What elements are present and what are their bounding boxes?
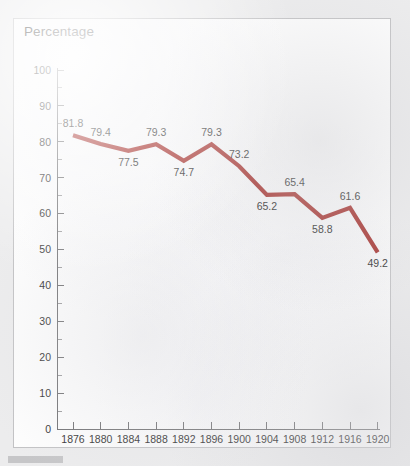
data-point-label: 74.7 (174, 166, 195, 178)
data-point-label: 49.2 (367, 257, 388, 269)
svg-text:80: 80 (39, 136, 51, 148)
svg-text:60: 60 (39, 207, 51, 219)
svg-text:50: 50 (39, 243, 51, 255)
svg-text:1884: 1884 (117, 433, 141, 445)
svg-text:10: 10 (39, 387, 51, 399)
svg-text:20: 20 (39, 351, 51, 363)
svg-text:40: 40 (39, 279, 51, 291)
data-point-labels: 81.879.477.579.374.779.373.265.265.458.8… (63, 117, 388, 269)
svg-text:1892: 1892 (172, 433, 196, 445)
svg-text:1876: 1876 (61, 433, 85, 445)
svg-text:100: 100 (33, 64, 51, 76)
svg-text:1912: 1912 (311, 433, 335, 445)
svg-text:30: 30 (39, 315, 51, 327)
svg-text:1896: 1896 (200, 433, 224, 445)
data-point-label: 79.4 (90, 126, 111, 138)
svg-text:1888: 1888 (144, 433, 168, 445)
svg-text:1920: 1920 (366, 433, 390, 445)
svg-text:1880: 1880 (89, 433, 113, 445)
x-axis-major-ticks (73, 422, 378, 429)
svg-text:1904: 1904 (255, 433, 279, 445)
data-point-label: 58.8 (312, 223, 333, 235)
data-point-label: 61.6 (340, 190, 361, 202)
svg-text:70: 70 (39, 172, 51, 184)
svg-text:1916: 1916 (338, 433, 362, 445)
data-point-label: 65.4 (284, 176, 305, 188)
y-axis-tick-labels: 1009080706050403020100 (33, 64, 51, 435)
footer-gray-bar (8, 456, 63, 463)
chart-panel: Percentage 1009080706050403020100 187618… (13, 18, 391, 448)
data-point-label: 65.2 (257, 200, 278, 212)
data-point-label: 81.8 (63, 117, 84, 129)
data-point-label: 73.2 (229, 148, 250, 160)
x-axis-tick-labels: 1876188018841888189218961900190419081912… (61, 433, 389, 445)
svg-text:90: 90 (39, 100, 51, 112)
data-point-label: 79.3 (201, 126, 222, 138)
data-point-label: 77.5 (118, 156, 139, 168)
line-chart-plot: 1009080706050403020100 18761880188418881… (14, 19, 392, 449)
data-point-label: 79.3 (146, 126, 167, 138)
svg-text:1908: 1908 (283, 433, 307, 445)
svg-text:0: 0 (45, 423, 51, 435)
svg-text:1900: 1900 (228, 433, 252, 445)
